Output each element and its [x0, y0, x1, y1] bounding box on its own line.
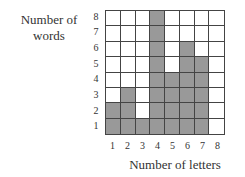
x-axis-ticks: 12345678 — [105, 140, 225, 151]
bar-cell — [195, 103, 210, 118]
grid-cell — [106, 88, 121, 103]
x-tick-label: 3 — [135, 140, 150, 151]
grid-cell — [195, 11, 210, 26]
x-tick-label: 6 — [180, 140, 195, 151]
bar-cell — [165, 73, 180, 88]
grid-cell — [180, 11, 195, 26]
y-tick-label: 4 — [91, 73, 101, 84]
y-tick-label: 7 — [91, 26, 101, 37]
bar-cell — [106, 119, 121, 134]
bar-cell — [150, 103, 165, 118]
bar-cell — [195, 73, 210, 88]
grid-cell — [209, 26, 224, 41]
bar-cell — [150, 57, 165, 72]
bar-cell — [180, 119, 195, 134]
grid-cell — [121, 42, 136, 57]
grid-cell — [195, 42, 210, 57]
grid-cell — [136, 103, 151, 118]
y-tick-label: 3 — [91, 89, 101, 100]
grid-cell — [121, 11, 136, 26]
x-axis-label: Number of letters — [105, 157, 245, 173]
grid-cell — [136, 73, 151, 88]
grid-cell — [209, 119, 224, 134]
bar-cell — [180, 42, 195, 57]
bar-cell — [180, 57, 195, 72]
bar-cell — [165, 103, 180, 118]
grid-cell — [136, 57, 151, 72]
bar-cell — [150, 119, 165, 134]
bar-cell — [165, 119, 180, 134]
grid-cell — [165, 57, 180, 72]
bar-cell — [150, 11, 165, 26]
bar-cell — [121, 103, 136, 118]
bar-cell — [150, 42, 165, 57]
x-tick-label: 8 — [210, 140, 225, 151]
x-tick-label: 4 — [150, 140, 165, 151]
y-axis-label-line2: words — [14, 28, 84, 44]
grid-cell — [209, 103, 224, 118]
grid-cell — [209, 57, 224, 72]
grid-cell — [136, 11, 151, 26]
grid-cell — [209, 42, 224, 57]
grid-cell — [180, 26, 195, 41]
grid-cell — [106, 73, 121, 88]
grid-cell — [209, 88, 224, 103]
y-tick-label: 8 — [91, 11, 101, 22]
bar-cell — [180, 88, 195, 103]
bar-cell — [106, 103, 121, 118]
bar-cell — [195, 88, 210, 103]
grid-cell — [165, 11, 180, 26]
y-axis-label-line1: Number of — [14, 12, 84, 28]
x-tick-label: 7 — [195, 140, 210, 151]
grid-cell — [106, 11, 121, 26]
bar-cell — [136, 119, 151, 134]
grid-cell — [195, 26, 210, 41]
grid-cell — [136, 88, 151, 103]
bar-cell — [195, 119, 210, 134]
bar-cell — [180, 73, 195, 88]
grid-cell — [106, 42, 121, 57]
grid-cell — [121, 57, 136, 72]
grid-cell — [209, 11, 224, 26]
grid-cell — [136, 26, 151, 41]
grid-cell — [121, 73, 136, 88]
bar-cell — [121, 88, 136, 103]
bar-cell — [121, 119, 136, 134]
y-tick-label: 2 — [91, 105, 101, 116]
chart-grid — [105, 10, 225, 135]
y-tick-label: 1 — [91, 120, 101, 131]
x-tick-label: 2 — [120, 140, 135, 151]
grid-cell — [106, 57, 121, 72]
grid-cell — [121, 26, 136, 41]
x-tick-label: 5 — [165, 140, 180, 151]
y-tick-label: 5 — [91, 58, 101, 69]
grid-cell — [165, 42, 180, 57]
bar-cell — [165, 88, 180, 103]
grid-cell — [165, 26, 180, 41]
grid-cell — [136, 42, 151, 57]
y-tick-label: 6 — [91, 42, 101, 53]
grid-cell — [209, 73, 224, 88]
y-axis-label: Number of words — [14, 12, 84, 44]
x-tick-label: 1 — [105, 140, 120, 151]
bar-cell — [150, 26, 165, 41]
bar-cell — [180, 103, 195, 118]
bar-cell — [150, 73, 165, 88]
bar-cell — [150, 88, 165, 103]
bar-cell — [195, 57, 210, 72]
grid-cell — [106, 26, 121, 41]
